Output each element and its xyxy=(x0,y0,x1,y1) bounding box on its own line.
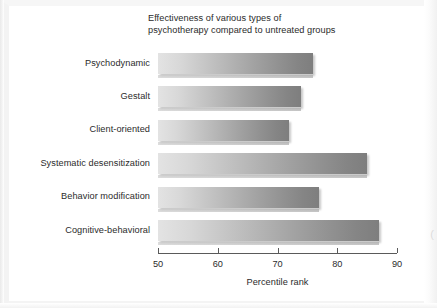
bar-cognitive-behavioral xyxy=(158,220,379,241)
chart-title: Effectiveness of various types ofpsychot… xyxy=(148,12,398,36)
x-tick-label-60: 60 xyxy=(206,259,230,269)
x-axis-line xyxy=(158,253,397,254)
category-label-row: Gestalt xyxy=(8,91,150,101)
category-label-row: Cognitive-behavioral xyxy=(8,225,150,235)
x-axis-title: Percentile rank xyxy=(158,277,397,287)
chart-figure: Effectiveness of various types ofpsychot… xyxy=(0,0,437,308)
x-tick-70 xyxy=(278,248,279,253)
x-tick-90 xyxy=(397,248,398,253)
bar-client-oriented xyxy=(158,120,289,141)
chart-title-line-1: Effectiveness of various types of xyxy=(148,12,398,24)
category-label-systematic-desensitization: Systematic desensitization xyxy=(8,158,150,168)
x-tick-80 xyxy=(337,248,338,253)
category-label-row: Psychodynamic xyxy=(8,58,150,68)
category-label-cognitive-behavioral: Cognitive-behavioral xyxy=(8,225,150,235)
category-label-row: Client-oriented xyxy=(8,124,150,134)
category-label-client-oriented: Client-oriented xyxy=(8,124,150,134)
x-tick-label-70: 70 xyxy=(266,259,290,269)
category-label-row: Behavior modification xyxy=(8,191,150,201)
x-tick-60 xyxy=(218,248,219,253)
plot-area: Effectiveness of various types ofpsychot… xyxy=(0,0,437,308)
x-tick-label-80: 80 xyxy=(325,259,349,269)
bar-gestalt xyxy=(158,86,301,107)
page-edge-glyph: ( xyxy=(430,228,434,240)
category-label-row: Systematic desensitization xyxy=(8,158,150,168)
bar-psychodynamic xyxy=(158,53,313,74)
x-tick-50 xyxy=(158,248,159,253)
category-label-behavior-modification: Behavior modification xyxy=(8,191,150,201)
category-label-gestalt: Gestalt xyxy=(8,91,150,101)
x-tick-label-90: 90 xyxy=(385,259,409,269)
x-tick-label-50: 50 xyxy=(146,259,170,269)
chart-title-line-2: psychotherapy compared to untreated grou… xyxy=(148,24,398,36)
bar-behavior-modification xyxy=(158,187,319,208)
bar-systematic-desensitization xyxy=(158,153,367,174)
category-label-psychodynamic: Psychodynamic xyxy=(8,58,150,68)
